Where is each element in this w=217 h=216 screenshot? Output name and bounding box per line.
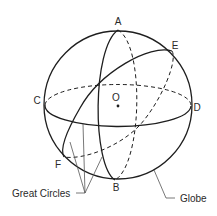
globe-diagram: A B C D E F O Great Circles Globe xyxy=(0,0,217,216)
label-point-a: A xyxy=(115,16,122,27)
great-circles-pointer-2 xyxy=(83,124,85,193)
label-point-e: E xyxy=(172,40,179,51)
meridian-front-arc xyxy=(98,30,118,180)
label-point-f: F xyxy=(55,159,61,170)
great-circles-pointer-1 xyxy=(70,142,85,193)
label-great-circles: Great Circles xyxy=(12,188,70,199)
label-globe: Globe xyxy=(180,193,207,204)
center-point xyxy=(117,105,120,108)
globe-pointer xyxy=(154,170,175,198)
equator-front-arc xyxy=(45,105,191,127)
great-circles-pointer-3 xyxy=(85,157,102,193)
label-point-b: B xyxy=(113,182,120,193)
label-point-c: C xyxy=(33,95,40,106)
label-point-d: D xyxy=(193,102,200,113)
label-center-o: O xyxy=(112,92,120,103)
